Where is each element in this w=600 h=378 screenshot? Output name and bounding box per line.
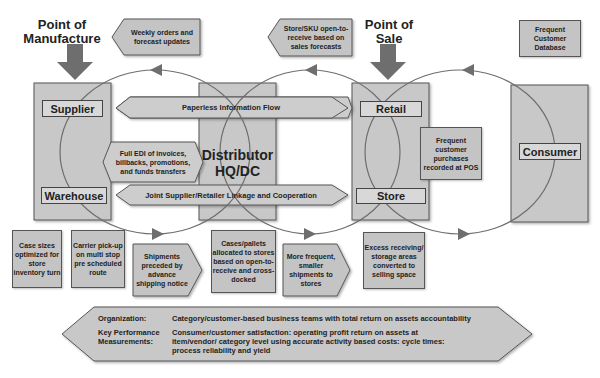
cycle-arrowhead-icon bbox=[304, 228, 316, 240]
manufacture-down-arrow-icon bbox=[57, 44, 93, 80]
excess-receiving-box: Excess receiving/ storage areas converte… bbox=[363, 232, 425, 289]
store-label: Store bbox=[356, 188, 426, 204]
cases-pallets-box: Cases/pallets allocated to stores based … bbox=[211, 230, 276, 293]
supplier-label: Supplier bbox=[42, 100, 103, 117]
weekly-orders-text: Weekly orders and forecast updates bbox=[124, 19, 200, 55]
organization-label: Organization: bbox=[98, 314, 168, 323]
retail-label: Retail bbox=[360, 101, 422, 117]
cycle-arrowhead-icon bbox=[305, 64, 317, 76]
cycle-arrowhead-icon bbox=[458, 228, 470, 240]
paperless-flow-text: Paperless Information Flow bbox=[130, 97, 332, 118]
point-of-manufacture-heading: Point of Manufacture bbox=[12, 18, 112, 46]
kpm-label: Key Performance Measurements: bbox=[98, 328, 168, 346]
consumer-label: Consumer bbox=[519, 143, 581, 160]
store-sku-text: Store/SKU open-to-receive based on sales… bbox=[280, 19, 352, 56]
organization-text: Category/customer-based business teams w… bbox=[172, 314, 502, 323]
case-sizes-box: Case sizes optimized for store inventory… bbox=[12, 230, 62, 288]
frequent-customer-database-box: Frequent Customer Database bbox=[519, 20, 581, 57]
frequent-purchases-box: Frequent customer purchases recorded at … bbox=[420, 127, 482, 180]
cycle-arrowhead-icon bbox=[462, 64, 474, 76]
distributor-label: Distributor HQ/DC bbox=[199, 147, 276, 179]
sale-down-arrow-icon bbox=[370, 44, 406, 80]
frequent-shipments-text: More frequent, smaller shipments to stor… bbox=[283, 244, 339, 296]
carrier-pickup-box: Carrier pick-up on multi stop pre schedu… bbox=[71, 230, 125, 288]
joint-linkage-text: Joint Supplier/Retailer Linkage and Coop… bbox=[130, 185, 332, 205]
shipments-notice-text: Shipments preceded by advance shipping n… bbox=[133, 244, 191, 296]
point-of-sale-heading: Point of Sale bbox=[358, 18, 420, 46]
cycle-arrowhead-icon bbox=[150, 64, 162, 76]
warehouse-label: Warehouse bbox=[41, 187, 107, 204]
edi-flow-text: Full EDI of invoices, billbacks, promoti… bbox=[111, 142, 195, 182]
cycle-arrowhead-icon bbox=[152, 228, 164, 240]
kpm-text: Consumer/customer satisfaction: operatin… bbox=[172, 328, 452, 355]
